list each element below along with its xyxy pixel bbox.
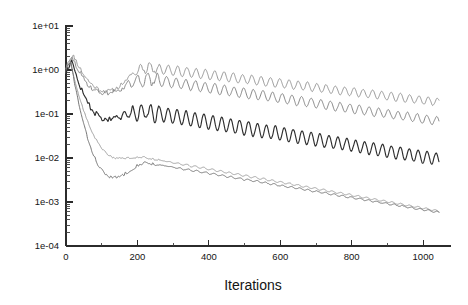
x-tick-label: 600 [272, 251, 288, 262]
y-tick-label: 1e-01 [35, 108, 59, 119]
chart-container: 1e+011e+001e-011e-021e-031e-04 020040060… [0, 0, 468, 305]
series-line-1 [66, 55, 439, 105]
convergence-plot: 1e+011e+001e-011e-021e-031e-04 020040060… [0, 0, 468, 305]
y-tick-label: 1e-04 [35, 240, 59, 251]
x-tick-label: 400 [201, 251, 217, 262]
data-series-group [66, 55, 439, 212]
y-tick-label: 1e+01 [32, 20, 59, 31]
x-axis-ticks: 02004006008001000 [63, 240, 433, 262]
y-tick-label: 1e+00 [32, 64, 59, 75]
axis-group [66, 25, 451, 246]
x-tick-label: 1000 [413, 251, 434, 262]
y-tick-label: 1e-03 [35, 196, 59, 207]
x-tick-label: 200 [129, 251, 145, 262]
x-tick-label: 800 [344, 251, 360, 262]
y-axis-ticks: 1e+011e+001e-011e-021e-031e-04 [32, 20, 73, 251]
x-axis-title: Iterations [224, 277, 282, 293]
y-tick-label: 1e-02 [35, 152, 59, 163]
x-tick-label: 0 [63, 251, 68, 262]
